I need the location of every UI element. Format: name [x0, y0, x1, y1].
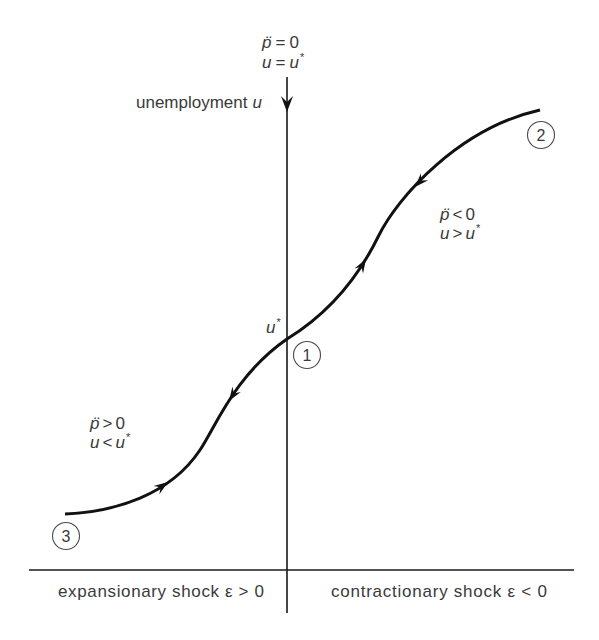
lhs: u — [440, 224, 450, 243]
operator: < — [102, 433, 112, 452]
point-1-marker: 1 — [294, 342, 321, 369]
rhs: u — [289, 53, 299, 72]
rhs: 0 — [289, 33, 298, 52]
adjustment-path-curve — [65, 110, 540, 514]
operator: > — [452, 224, 462, 243]
point-3-label: 3 — [62, 528, 71, 545]
rhs: 0 — [465, 205, 474, 224]
region-upper-right-label: p̈<0 u>u* — [439, 205, 481, 243]
point-2-label: 2 — [537, 127, 546, 144]
region-lower-left-line1: p̈>0 — [89, 414, 125, 433]
axis-condition-line1: p̈=0 — [261, 33, 299, 52]
rhs: 0 — [115, 414, 124, 433]
region-lower-left-line2: u<u* — [90, 431, 131, 452]
region-upper-right-line1: p̈<0 — [439, 205, 475, 224]
equilibrium-label: u* — [266, 316, 281, 337]
superscript: * — [126, 431, 131, 443]
x-axis-right-label: contractionary shock ε < 0 — [331, 582, 547, 601]
axis-condition-label: p̈=0 u=u* — [261, 33, 305, 72]
y-axis-label: unemploymentu — [136, 93, 263, 112]
operator: < — [452, 205, 462, 224]
point-2-marker: 2 — [528, 122, 555, 149]
operator: > — [102, 414, 112, 433]
point-1-label: 1 — [303, 347, 312, 364]
region-upper-right-line2: u>u* — [440, 222, 481, 243]
lhs: u — [262, 53, 272, 72]
equilibrium-variable: u — [266, 318, 276, 337]
point-3-marker: 3 — [53, 523, 80, 550]
operator: = — [275, 33, 285, 52]
phase-diagram: 1 2 3 unemploymentu u* p̈=0 u=u* p̈<0 u>… — [0, 0, 599, 640]
equilibrium-superscript: * — [276, 316, 281, 328]
y-axis-variable: u — [253, 93, 263, 112]
superscript: * — [476, 222, 481, 234]
lhs: p̈ — [89, 414, 100, 433]
rhs: u — [465, 224, 475, 243]
operator: = — [275, 53, 285, 72]
lhs: u — [90, 433, 100, 452]
region-lower-left-label: p̈>0 u<u* — [89, 414, 131, 452]
y-axis-label-text: unemployment — [136, 93, 248, 112]
x-axis-left-label: expansionary shock ε > 0 — [58, 582, 264, 601]
lhs: p̈ — [261, 33, 272, 52]
rhs: u — [115, 433, 125, 452]
superscript: * — [300, 51, 305, 63]
lhs: p̈ — [439, 205, 450, 224]
axis-condition-line2: u=u* — [262, 51, 305, 72]
